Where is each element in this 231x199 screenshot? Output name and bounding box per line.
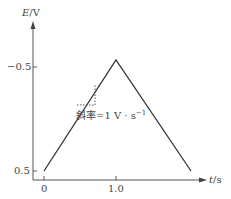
slope-triangle	[77, 84, 95, 105]
y-axis-label: E/V	[22, 8, 40, 18]
y-tick-label-top: −0.5	[7, 62, 31, 72]
y-axis-unit: /V	[29, 7, 40, 18]
slope-exponent: −1	[136, 109, 146, 117]
slope-annotation: 斜率=1 V · s−1	[76, 110, 146, 121]
x-tick-label-1: 1.0	[108, 184, 124, 194]
x-axis-arrow-icon	[199, 178, 207, 183]
chart-canvas	[0, 0, 231, 199]
x-axis-label: t/s	[209, 175, 222, 185]
y-axis-arrow-icon	[31, 21, 36, 29]
y-tick-label-bottom: 0.5	[14, 166, 30, 176]
slope-text: 斜率=1 V · s	[76, 110, 136, 121]
x-axis-unit: /s	[213, 174, 222, 185]
x-tick-label-0: 0	[41, 184, 47, 194]
